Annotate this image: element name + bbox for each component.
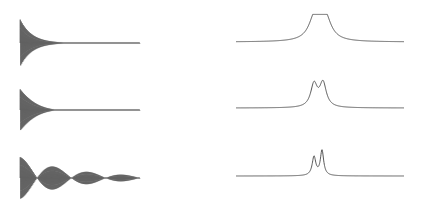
spectrum-1 [236,14,404,41]
spectrum-3 [236,150,404,176]
spectrum-2 [236,80,404,108]
time-signal-2 [20,89,140,130]
time-signal-3 [20,157,140,198]
time-signal-1 [20,20,140,66]
figure-canvas [0,0,434,212]
